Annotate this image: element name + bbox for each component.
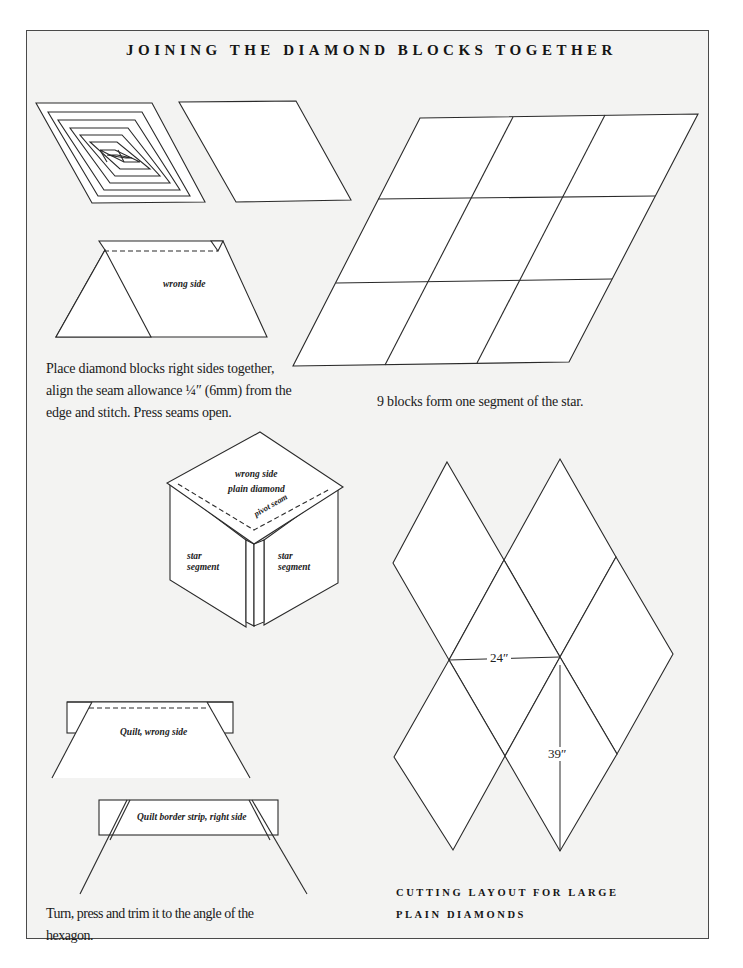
caption-turn-press-trim: Turn, press and trim it to the angle of … bbox=[46, 903, 336, 947]
log-cabin-diamond-block bbox=[36, 103, 205, 203]
cutting-layout-diagram bbox=[393, 459, 673, 851]
plain-diamond-label: plain diamond bbox=[228, 484, 285, 495]
caption-line: align the seam allowance ¼″ (6mm) from t… bbox=[46, 380, 326, 402]
label-line: star bbox=[187, 551, 219, 562]
heading-line: CUTTING LAYOUT FOR LARGE bbox=[396, 882, 619, 904]
caption-line: edge and stitch. Press seams open. bbox=[46, 402, 326, 424]
star-segment-left-label: star segment bbox=[187, 551, 219, 573]
caption-place-diamond-blocks: Place diamond blocks right sides togethe… bbox=[46, 358, 326, 424]
caption-line: Place diamond blocks right sides togethe… bbox=[46, 358, 326, 380]
quilt-wrong-side-label: Quilt, wrong side bbox=[120, 727, 187, 738]
width-dimension-label: 24″ bbox=[487, 651, 511, 665]
seamed-blocks-diagram bbox=[56, 241, 267, 337]
border-strip-label: Quilt border strip, right side bbox=[137, 812, 247, 823]
label-line: star bbox=[278, 551, 310, 562]
caption-nine-blocks: 9 blocks form one segment of the star. bbox=[377, 391, 583, 413]
label-line: segment bbox=[278, 562, 310, 573]
star-segment-right-label: star segment bbox=[278, 551, 310, 573]
quilt-wrong-side-diagram bbox=[52, 702, 250, 778]
caption-line: hexagon. bbox=[46, 925, 336, 947]
heading-line: PLAIN DIAMONDS bbox=[396, 904, 619, 926]
cutting-layout-heading: CUTTING LAYOUT FOR LARGE PLAIN DIAMONDS bbox=[396, 882, 619, 926]
height-dimension-label: 39″ bbox=[545, 747, 569, 761]
wrong-side-label: wrong side bbox=[235, 469, 278, 480]
diagram-artwork bbox=[0, 0, 743, 968]
label-line: segment bbox=[187, 562, 219, 573]
wrong-side-label: wrong side bbox=[163, 279, 206, 290]
plain-diamond-block bbox=[179, 101, 351, 202]
star-segment-grid bbox=[293, 114, 698, 366]
pivot-seam-diagram bbox=[167, 432, 343, 627]
caption-line: Turn, press and trim it to the angle of … bbox=[46, 903, 336, 925]
